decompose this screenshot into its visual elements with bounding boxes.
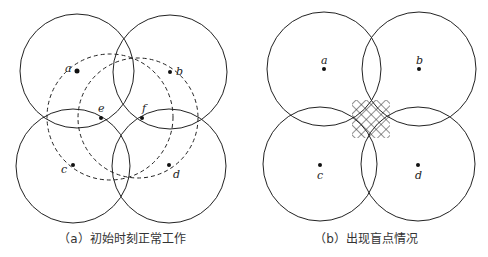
label-c-panel-a: c <box>61 163 67 176</box>
node-d-dot-b <box>416 163 420 167</box>
caption-panel-a: （a）初始时刻正常工作 <box>0 229 244 246</box>
node-f-dot <box>140 116 144 120</box>
caption-panel-b: （b）出现盲点情况 <box>244 229 488 246</box>
node-a-dot <box>75 69 80 74</box>
label-e-panel-a: e <box>98 102 105 115</box>
label-a-panel-a: a <box>65 62 72 75</box>
panel-a <box>16 14 227 223</box>
node-c-dot-b <box>318 163 322 167</box>
diagram-canvas: a b c d e f a b c d <box>0 0 488 257</box>
label-a-panel-b: a <box>321 54 328 67</box>
node-b-dot <box>168 70 172 74</box>
label-b-panel-b: b <box>416 54 423 67</box>
panel-a-nodes <box>71 69 172 168</box>
node-d-dot <box>167 163 171 167</box>
label-b-panel-a: b <box>176 65 183 78</box>
node-e-dot <box>99 116 103 120</box>
node-c-dot <box>71 163 75 167</box>
node-b-dot-b <box>417 67 421 71</box>
label-d-panel-a: d <box>173 168 180 181</box>
label-d-panel-b: d <box>415 169 422 182</box>
label-c-panel-b: c <box>317 169 323 182</box>
node-a-dot-b <box>322 67 326 71</box>
